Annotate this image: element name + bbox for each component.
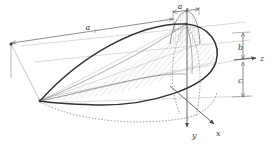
label-a-r: a r: [86, 23, 97, 34]
label-a-f-symbol: a: [178, 2, 183, 11]
label-a-r-symbol: a: [86, 23, 91, 32]
label-c: c: [238, 76, 243, 85]
label-b: b: [238, 43, 243, 52]
diagram-canvas: a r a f b c z y x: [0, 0, 276, 144]
technical-diagram: a r a f b c z y x: [0, 0, 276, 144]
label-a-r-subscript: r: [94, 28, 97, 34]
label-axis-z: z: [259, 54, 265, 63]
label-axis-x: x: [216, 129, 221, 138]
label-axis-y: y: [191, 131, 197, 140]
